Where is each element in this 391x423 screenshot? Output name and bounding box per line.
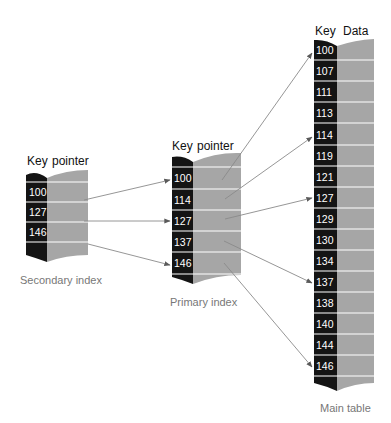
main-table-data-column [337,39,374,391]
secondary-index: Key pointer 100 127 146 Secondary index [20,154,102,286]
secondary-key-cell: 127 [29,206,47,218]
primary-key-cell: 100 [174,172,192,184]
main-key-cell: 114 [316,129,333,141]
secondary-key-cell: 146 [29,226,47,238]
arrow-primary-146-to-main-146 [224,263,312,367]
main-key-cell: 134 [316,255,334,267]
main-table-header-data: Data [343,24,369,38]
primary-key-cell: 137 [174,236,192,248]
main-key-cell: 107 [316,65,334,77]
secondary-index-header-pointer: pointer [52,154,89,168]
main-key-cell: 137 [316,276,334,288]
arrow-primary-100-to-main-100 [222,53,312,180]
main-key-cell: 138 [316,297,334,309]
secondary-index-keys: 100 127 146 [29,186,47,238]
main-table-header-key: Key [315,24,336,38]
secondary-index-header-key: Key [27,154,48,168]
index-diagram: Key pointer 100 127 146 Secondary index … [0,0,391,423]
secondary-key-cell: 100 [29,186,47,198]
main-key-cell: 113 [316,107,333,119]
arrow-secondary-146-to-primary-146 [88,244,170,265]
main-key-cell: 129 [316,213,334,225]
primary-index: Key pointer 100 114 127 137 146 Primary … [170,139,241,308]
main-table: Key Data 100 107 111 113 114 [314,24,374,414]
main-table-caption: Main table [320,402,371,414]
main-key-cell: 111 [316,86,332,98]
main-key-cell: 119 [316,150,333,162]
main-key-cell: 130 [316,234,334,246]
arrow-secondary-100-to-primary-100 [84,180,170,200]
main-key-cell: 121 [316,171,334,183]
primary-index-header-key: Key [172,139,193,153]
primary-index-header-pointer: pointer [197,139,234,153]
primary-key-cell: 127 [174,215,192,227]
secondary-index-caption: Secondary index [20,274,102,286]
main-key-cell: 144 [316,339,334,351]
main-key-cell: 146 [316,360,334,372]
primary-index-caption: Primary index [170,296,238,308]
main-key-cell: 100 [316,44,334,56]
main-key-cell: 127 [316,192,334,204]
secondary-index-pointer-column [47,170,88,262]
primary-key-cell: 114 [174,194,191,206]
main-key-cell: 140 [316,318,334,330]
primary-index-pointer-column [193,153,241,284]
primary-key-cell: 146 [174,257,192,269]
